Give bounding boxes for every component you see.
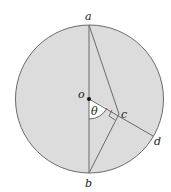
label-c: c (121, 108, 127, 121)
label-theta: θ (91, 105, 98, 118)
center-point-o (87, 97, 91, 101)
label-o: o (78, 88, 85, 101)
label-a: a (85, 10, 92, 23)
geometry-diagram: a b o c d θ (0, 0, 171, 192)
label-b: b (85, 177, 92, 190)
label-d: d (154, 135, 161, 148)
